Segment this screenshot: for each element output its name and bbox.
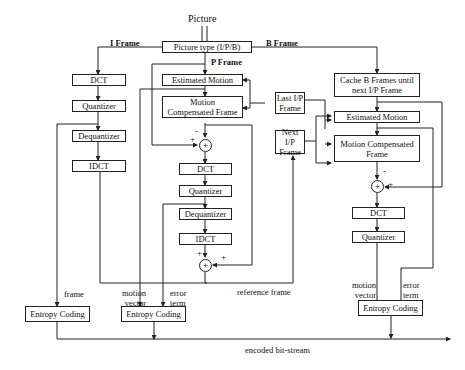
i-dequantizer-box: Dequantizer bbox=[72, 130, 126, 142]
b-estimated-motion-box: Estimated Motion bbox=[334, 111, 420, 123]
b-dct-box: DCT bbox=[352, 207, 405, 219]
b-frame-label: B Frame bbox=[266, 38, 298, 48]
b-quantizer-box: Quantizer bbox=[352, 231, 405, 243]
b-sum-plus: + bbox=[388, 180, 393, 189]
p-sum1-plus: + bbox=[190, 135, 195, 144]
p-error-term-label: error term bbox=[170, 288, 192, 308]
p-quantizer-box: Quantizer bbox=[179, 185, 232, 197]
p-frame-label: P Frame bbox=[211, 57, 242, 67]
b-adder: + bbox=[371, 180, 384, 193]
b-sum-minus: - bbox=[383, 167, 386, 176]
picture-label: Picture bbox=[188, 14, 216, 24]
i-quantizer-box: Quantizer bbox=[72, 100, 126, 112]
p-idct-box: IDCT bbox=[179, 233, 232, 245]
b-motion-compensated-box: Motion Compensated Frame bbox=[334, 135, 420, 162]
last-ip-frame-box: Last I/P Frame bbox=[275, 92, 305, 114]
p-dct-box: DCT bbox=[179, 163, 232, 175]
b-error-term-label: error term bbox=[403, 280, 425, 300]
encoded-bitstream-label: encoded bit-stream bbox=[245, 345, 310, 355]
next-ip-frame-box: Next I/P Frame bbox=[275, 130, 305, 154]
p-entropy-coding-box: Entropy Coding bbox=[121, 306, 186, 322]
i-entropy-coding-box: Entropy Coding bbox=[25, 306, 90, 322]
picture-type-box: Picture type (I/P/B) bbox=[162, 41, 252, 53]
p-estimated-motion-box: Estimated Motion bbox=[162, 74, 243, 86]
p-motion-compensated-box: Motion Compensated Frame bbox=[162, 96, 243, 118]
cache-b-frames-box: Cache B Frames until next I/P Frame bbox=[334, 73, 420, 97]
i-dct-box: DCT bbox=[72, 74, 126, 86]
i-frame-label: I Frame bbox=[110, 38, 140, 48]
p-adder-2: + bbox=[199, 259, 212, 272]
p-motion-vector-label: motion vector bbox=[116, 288, 146, 308]
i-idct-box: IDCT bbox=[72, 160, 126, 172]
frame-label: frame bbox=[64, 289, 84, 299]
p-adder-1: + bbox=[199, 139, 212, 152]
p-sum2-plus-right: + bbox=[221, 253, 226, 262]
b-motion-vector-label: motion vector bbox=[348, 280, 376, 300]
b-entropy-coding-box: Entropy Coding bbox=[358, 300, 423, 316]
p-sum1-minus: - bbox=[195, 127, 198, 136]
p-dequantizer-box: Dequantizer bbox=[179, 208, 232, 220]
reference-frame-label: reference frame bbox=[237, 287, 291, 297]
p-sum2-plus-top: + bbox=[197, 249, 202, 258]
